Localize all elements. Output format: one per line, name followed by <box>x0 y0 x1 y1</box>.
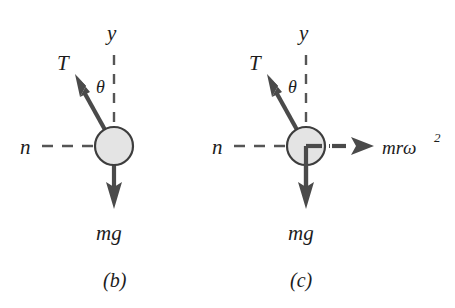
free-body-diagram-figure: T θ y n mg (b) <box>0 0 455 308</box>
label-normal-n: n <box>212 135 223 159</box>
label-weight-mg: mg <box>96 221 122 245</box>
label-centrifugal-force: mrω 2 <box>382 130 441 158</box>
label-y-axis: y <box>297 21 309 45</box>
panel-caption-b: (b) <box>103 269 127 292</box>
label-angle-theta: θ <box>288 77 297 97</box>
svg-text:mrω: mrω <box>382 137 417 158</box>
panel-caption-c: (c) <box>290 269 313 292</box>
label-angle-theta: θ <box>96 77 105 97</box>
label-weight-mg: mg <box>288 221 314 245</box>
pendulum-bob <box>95 127 133 165</box>
label-normal-n: n <box>20 135 31 159</box>
svg-text:2: 2 <box>434 130 441 145</box>
label-y-axis: y <box>105 21 117 45</box>
label-tension: T <box>249 51 262 75</box>
label-tension: T <box>57 51 70 75</box>
panel-c: T θ y n mg mrω 2 (c) <box>212 21 441 292</box>
panel-b: T θ y n mg (b) <box>20 21 133 292</box>
